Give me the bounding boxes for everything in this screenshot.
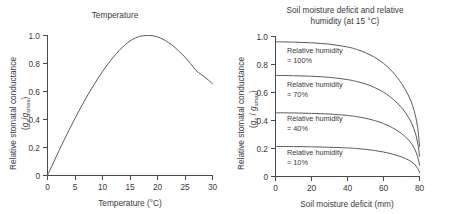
x-tick-labels-right: 0 20 40 60 80 xyxy=(273,183,424,193)
x-axis-label-right: Soil moisture deficit (mm) xyxy=(300,199,394,209)
soil-moisture-plot: Relative stomatal conductance (gs / gsma… xyxy=(230,0,460,214)
chart-panel-temperature: Temperature Relative stomatal conductanc… xyxy=(0,0,230,214)
annotation-line2: = 10% xyxy=(287,158,308,167)
y-axis-label-right-line1: Relative stomatal conductance xyxy=(236,57,246,170)
y-tick-label: 0.8 xyxy=(28,59,40,69)
x-tick-label: 5 xyxy=(73,182,78,192)
y-tick-label: 0.8 xyxy=(256,60,268,70)
x-tick-label: 40 xyxy=(343,183,353,193)
x-ticks-right xyxy=(276,177,420,182)
x-tick-labels-left: 0 5 10 15 20 25 30 xyxy=(45,182,217,192)
figure-container: Temperature Relative stomatal conductanc… xyxy=(0,0,460,214)
x-tick-label: 20 xyxy=(153,182,163,192)
annotation-line1: Relative humidity xyxy=(287,46,343,55)
annotation-line1: Relative humidity xyxy=(287,114,343,123)
x-axis-label-left: Temperature (°C) xyxy=(98,198,162,208)
annotation-line1: Relative humidity xyxy=(287,80,343,89)
annotation-rh-70: Relative humidity = 70% xyxy=(287,80,343,99)
y-tick-label: 0.6 xyxy=(256,88,268,98)
annotation-rh-10: Relative humidity = 10% xyxy=(287,148,343,167)
annotation-line2: = 70% xyxy=(287,90,308,99)
y-tick-label: 0.2 xyxy=(28,143,40,153)
x-tick-label: 15 xyxy=(125,182,135,192)
y-tick-label: 0 xyxy=(263,172,268,182)
temperature-svg: Relative stomatal conductance (gs/gsmax)… xyxy=(0,0,230,214)
annotation-rh-100: Relative humidity = 100% xyxy=(287,46,343,65)
y-axis-label-left-sub2: smax xyxy=(25,99,31,113)
chart-panel-soil-moisture: Soil moisture deficit and relative humid… xyxy=(230,0,460,214)
annotation-line1: Relative humidity xyxy=(287,148,343,157)
annotation-line2: = 40% xyxy=(287,124,308,133)
data-curve-temperature xyxy=(48,35,213,175)
x-tick-label: 25 xyxy=(180,182,190,192)
y-ticks-right xyxy=(271,37,276,177)
y-tick-label: 0 xyxy=(35,171,40,181)
x-tick-label: 10 xyxy=(98,182,108,192)
x-tick-label: 30 xyxy=(208,182,218,192)
y-tick-label: 0.4 xyxy=(256,116,268,126)
x-tick-label: 0 xyxy=(45,182,50,192)
x-tick-label: 60 xyxy=(379,183,389,193)
x-tick-label: 20 xyxy=(307,183,317,193)
y-tick-label: 0.2 xyxy=(256,144,268,154)
axis-spines-left xyxy=(48,36,213,176)
y-axis-label-left-paren-close: ) xyxy=(20,97,30,100)
y-ticks-left xyxy=(43,36,48,176)
y-tick-label: 1.0 xyxy=(28,31,40,41)
y-axis-label-left: Relative stomatal conductance (gs/gsmax) xyxy=(8,57,31,170)
annotation-line2: = 100% xyxy=(287,56,312,65)
x-tick-label: 0 xyxy=(273,183,278,193)
temperature-plot: Relative stomatal conductance (gs/gsmax)… xyxy=(0,0,230,214)
y-axis-label-left-line1: Relative stomatal conductance xyxy=(8,57,18,170)
x-tick-label: 80 xyxy=(415,183,425,193)
y-tick-label: 0.6 xyxy=(28,87,40,97)
y-tick-label: 0.4 xyxy=(28,115,40,125)
soil-moisture-svg: Relative stomatal conductance (gs / gsma… xyxy=(230,0,460,214)
x-ticks-left xyxy=(48,176,213,181)
y-axis-label-left-line2: (gs/gsmax) xyxy=(20,97,31,131)
y-tick-label: 1.0 xyxy=(256,32,268,42)
annotation-rh-40: Relative humidity = 40% xyxy=(287,114,343,133)
